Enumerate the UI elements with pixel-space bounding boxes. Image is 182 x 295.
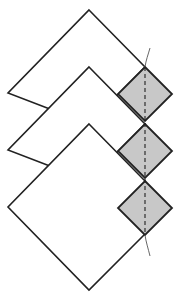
top-curve xyxy=(145,48,150,67)
stacked-diamonds-diagram xyxy=(0,0,182,295)
bottom-curve xyxy=(145,235,150,256)
